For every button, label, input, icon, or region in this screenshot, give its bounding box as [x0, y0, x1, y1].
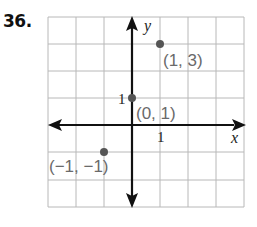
point-label-0-1: (0, 1): [136, 104, 176, 123]
y-tick-label-1: 1: [118, 91, 126, 107]
point-label-neg1-neg1: (−1, −1): [49, 157, 109, 176]
point-label-1-3: (1, 3): [163, 51, 203, 70]
coordinate-plane: y x 1 1 (1, 3) (0, 1) (−1, −1): [0, 0, 257, 227]
x-tick-label-1: 1: [157, 129, 165, 145]
point-0-1: [128, 94, 136, 102]
y-axis-label: y: [142, 17, 152, 35]
point-neg1-neg1: [100, 148, 108, 156]
x-axis-label: x: [230, 129, 238, 146]
point-1-3: [156, 40, 164, 48]
